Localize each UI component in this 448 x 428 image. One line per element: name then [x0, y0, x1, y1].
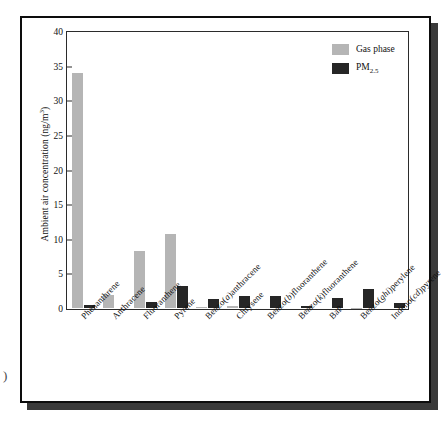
y-axis-tick-label: 30 — [54, 96, 64, 106]
y-axis-tick-label: 0 — [58, 304, 63, 314]
bar-gas-phase — [72, 73, 83, 308]
legend-label-gas-phase: Gas phase — [356, 44, 395, 54]
legend-item-pm25: PM2.5 — [332, 62, 395, 74]
legend-item-gas-phase: Gas phase — [332, 43, 395, 55]
y-axis-tick-label: 35 — [54, 62, 64, 72]
y-axis-title: Ambient air concentration (ng/m3) — [38, 64, 50, 284]
bar-gas-phase — [227, 306, 238, 308]
y-axis-tick-label: 10 — [54, 235, 64, 245]
bar-chart: Ambient air concentration (ng/m3) 051015… — [20, 16, 431, 403]
legend-swatch-gas-phase-icon — [332, 44, 349, 55]
chart-legend: Gas phase PM2.5 — [332, 43, 395, 81]
scanned-page: ) Ambient air concentration (ng/m3) 0510… — [0, 0, 448, 428]
bar-group — [130, 33, 161, 308]
legend-swatch-pm25-icon — [332, 63, 349, 74]
y-axis-title-superscript: 3 — [38, 110, 46, 114]
y-axis-title-tail: ) — [40, 107, 50, 110]
y-axis-title-text: Ambient air concentration (ng/m — [40, 114, 50, 242]
y-axis-tick-label: 15 — [54, 200, 64, 210]
legend-label-pm25-subscript: 2.5 — [370, 66, 379, 74]
bar-group — [192, 33, 223, 308]
y-axis-tick-label: 40 — [54, 27, 64, 37]
bar-group — [68, 33, 99, 308]
y-axis-tick-label: 5 — [58, 269, 63, 279]
y-axis-tick-label: 20 — [54, 166, 64, 176]
bar-gas-phase — [196, 307, 207, 308]
margin-glyph: ) — [3, 368, 7, 384]
legend-label-pm25: PM2.5 — [356, 62, 378, 75]
y-axis-tick-label: 25 — [54, 131, 64, 141]
bar-group — [99, 33, 130, 308]
bar-group — [161, 33, 192, 308]
legend-label-pm25-base: PM — [356, 62, 370, 72]
